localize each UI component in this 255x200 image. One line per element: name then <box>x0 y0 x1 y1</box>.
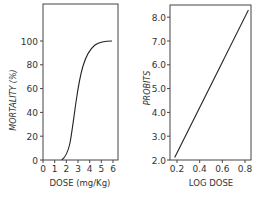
left-y-tick-labels: 0 20 40 60 80 100 <box>21 37 38 166</box>
y-tick-60: 60 <box>27 84 39 94</box>
x-tick-5: 5 <box>98 164 104 174</box>
mortality-curve <box>62 41 112 160</box>
y-tick-0: 0 <box>32 156 38 166</box>
right-x-axis-label: LOG DOSE <box>189 178 233 188</box>
x-tick-6: 6 <box>110 164 116 174</box>
x-tick-0.2: 0.2 <box>170 164 184 174</box>
y-tick-3: 3.0 <box>152 132 167 142</box>
probit-chart: 2.0 3.0 4.0 5.0 6.0 7.0 8.0 0.2 0.4 0.6 … <box>143 5 252 188</box>
x-tick-0.4: 0.4 <box>193 164 208 174</box>
mortality-chart: 0 20 40 60 80 100 0 1 2 3 4 5 6 DOSE (mg… <box>9 4 118 188</box>
y-tick-6: 6.0 <box>152 60 167 70</box>
y-tick-100: 100 <box>21 37 38 47</box>
left-x-axis-label: DOSE (mg/Kg) <box>50 178 111 188</box>
x-tick-3: 3 <box>75 164 81 174</box>
figure: 0 20 40 60 80 100 0 1 2 3 4 5 6 DOSE (mg… <box>0 0 255 200</box>
right-y-tick-labels: 2.0 3.0 4.0 5.0 6.0 7.0 8.0 <box>152 13 167 166</box>
x-tick-0.8: 0.8 <box>238 164 253 174</box>
y-tick-20: 20 <box>27 132 39 142</box>
right-x-tick-labels: 0.2 0.4 0.6 0.8 <box>170 164 253 174</box>
y-tick-7: 7.0 <box>152 37 167 47</box>
x-tick-1: 1 <box>52 164 58 174</box>
y-tick-2: 2.0 <box>152 156 167 166</box>
x-tick-0: 0 <box>40 164 46 174</box>
probit-line <box>175 10 249 158</box>
left-plot-frame <box>43 4 118 160</box>
x-tick-2: 2 <box>63 164 69 174</box>
left-x-tick-labels: 0 1 2 3 4 5 6 <box>40 164 116 174</box>
y-tick-40: 40 <box>27 108 39 118</box>
left-y-axis-label: MORTALITY (%) <box>9 69 18 130</box>
x-tick-0.6: 0.6 <box>215 164 230 174</box>
y-tick-80: 80 <box>27 60 39 70</box>
y-tick-4: 4.0 <box>152 108 167 118</box>
y-tick-8: 8.0 <box>152 13 167 23</box>
right-y-axis-label: PROBITS <box>143 71 152 106</box>
x-tick-4: 4 <box>87 164 93 174</box>
y-tick-5: 5.0 <box>152 84 167 94</box>
